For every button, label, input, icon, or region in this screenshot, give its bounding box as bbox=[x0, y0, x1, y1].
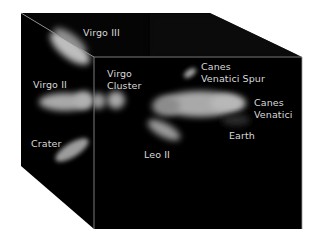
blob-virgo-cluster bbox=[107, 91, 125, 109]
label-canes-venatici-spur-line1: Canes bbox=[201, 61, 231, 72]
blob-haze bbox=[222, 114, 250, 126]
label-crater: Crater bbox=[31, 138, 61, 149]
blob-canes-venatici-left bbox=[152, 96, 180, 116]
label-virgo-iii: Virgo III bbox=[83, 27, 120, 38]
label-virgo-cluster-line2: Cluster bbox=[107, 80, 141, 91]
cube-svg: Virgo III Virgo II Virgo Cluster Canes V… bbox=[0, 0, 321, 247]
label-virgo-ii: Virgo II bbox=[33, 79, 67, 90]
blob-virgo-ii-knot bbox=[74, 91, 94, 109]
label-earth: Earth bbox=[229, 130, 255, 141]
blob-canes-venatici-core bbox=[210, 94, 246, 112]
label-canes-venatici-line1: Canes bbox=[254, 97, 284, 108]
label-leo-ii: Leo II bbox=[144, 149, 170, 160]
label-canes-venatici-line2: Venatici bbox=[254, 109, 292, 120]
supercluster-cube-diagram: Virgo III Virgo II Virgo Cluster Canes V… bbox=[0, 0, 321, 247]
label-canes-venatici-spur-line2: Venatici Spur bbox=[201, 73, 265, 84]
label-virgo-cluster-line1: Virgo bbox=[107, 68, 132, 79]
